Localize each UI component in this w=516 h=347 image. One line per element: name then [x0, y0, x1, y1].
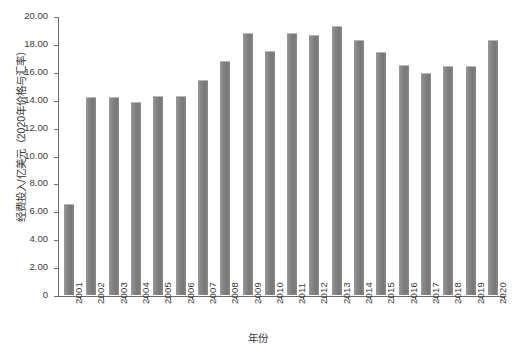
x-tick-label: 2014 — [363, 282, 374, 304]
bar — [220, 61, 230, 295]
plot-area: 02.004.006.008.0010.0012.0014.0016.0018.… — [58, 17, 504, 296]
y-tick: 6.00 — [54, 212, 58, 213]
y-tick-label: 2.00 — [30, 261, 49, 272]
y-tick: 8.00 — [54, 184, 58, 185]
bar — [466, 66, 476, 295]
x-axis-title: 年份 — [0, 330, 516, 345]
x-tick-label: 2004 — [140, 282, 151, 304]
y-tick: 4.00 — [54, 240, 58, 241]
bar — [176, 96, 186, 295]
x-tick-label: 2020 — [497, 282, 508, 304]
y-tick: 0 — [54, 296, 58, 297]
bar — [287, 33, 297, 295]
y-tick-label: 12.00 — [24, 122, 48, 133]
bar — [109, 97, 119, 295]
y-tick: 12.00 — [54, 129, 58, 130]
x-tick-label: 2016 — [408, 282, 419, 304]
bar — [399, 65, 409, 295]
bar — [86, 97, 96, 295]
x-tick-label: 2007 — [207, 282, 218, 304]
x-tick-label: 2010 — [274, 282, 285, 304]
y-tick-label: 4.00 — [30, 233, 49, 244]
y-tick-label: 8.00 — [30, 177, 49, 188]
x-tick-label: 2015 — [385, 282, 396, 304]
bar — [131, 102, 141, 295]
bar-chart: 经费投入/亿美元（2020年价格与汇率） 02.004.006.008.0010… — [0, 0, 516, 347]
y-tick: 18.00 — [54, 45, 58, 46]
x-tick-label: 2017 — [430, 282, 441, 304]
bar — [153, 96, 163, 295]
y-tick: 20.00 — [54, 17, 58, 18]
y-tick-label: 14.00 — [24, 94, 48, 105]
y-tick: 14.00 — [54, 101, 58, 102]
bar — [265, 51, 275, 295]
x-tick-label: 2013 — [341, 282, 352, 304]
y-tick: 10.00 — [54, 157, 58, 158]
bar — [198, 80, 208, 295]
x-tick-label: 2012 — [318, 282, 329, 304]
x-tick-label: 2003 — [118, 282, 129, 304]
x-tick-label: 2018 — [452, 282, 463, 304]
bar — [332, 26, 342, 295]
y-tick-label: 18.00 — [24, 38, 48, 49]
bar — [309, 35, 319, 295]
bar — [443, 66, 453, 295]
x-tick-label: 2019 — [475, 282, 486, 304]
bar — [421, 73, 431, 295]
y-tick-label: 0 — [43, 289, 48, 300]
bar — [488, 40, 498, 295]
bar — [243, 33, 253, 295]
bar — [354, 40, 364, 295]
x-tick-label: 2002 — [95, 282, 106, 304]
x-tick-label: 2006 — [185, 282, 196, 304]
x-tick-label: 2008 — [229, 282, 240, 304]
y-tick: 16.00 — [54, 73, 58, 74]
x-tick-label: 2009 — [252, 282, 263, 304]
y-tick-label: 16.00 — [24, 66, 48, 77]
y-tick-label: 10.00 — [24, 150, 48, 161]
y-tick-label: 20.00 — [24, 10, 48, 21]
y-tick-label: 6.00 — [30, 205, 49, 216]
x-tick-label: 2001 — [73, 282, 84, 304]
x-tick-label: 2005 — [162, 282, 173, 304]
bar — [376, 52, 386, 295]
x-tick-label: 2011 — [296, 283, 307, 304]
y-axis-line — [58, 17, 59, 297]
y-tick: 2.00 — [54, 268, 58, 269]
